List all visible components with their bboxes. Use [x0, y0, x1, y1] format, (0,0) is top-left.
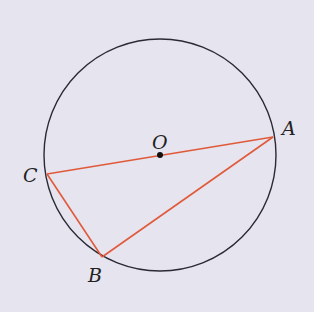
label-C: C — [23, 164, 38, 186]
label-O: O — [152, 131, 168, 153]
geometry-diagram: O A C B — [0, 0, 314, 312]
label-A: A — [280, 117, 296, 139]
label-B: B — [87, 264, 102, 286]
